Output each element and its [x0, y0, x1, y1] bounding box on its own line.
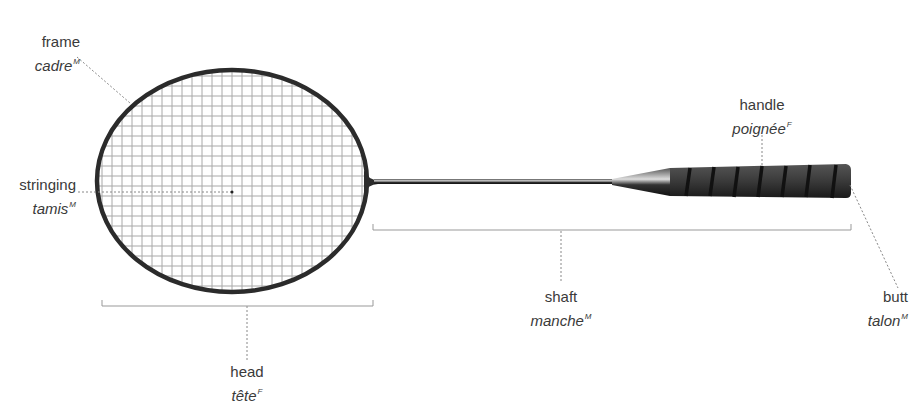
shaft-taper	[612, 168, 670, 196]
label-head: head têteF	[207, 362, 287, 405]
label-frame: frame cadreM	[20, 32, 80, 76]
butt-leader	[850, 185, 898, 288]
shaft-bracket	[373, 224, 851, 230]
head-bracket	[102, 300, 373, 306]
label-butt: butt talonM	[840, 287, 908, 331]
label-handle: handle poignéeF	[712, 95, 812, 139]
stringing-point	[231, 191, 234, 194]
label-shaft: shaft mancheM	[511, 287, 611, 331]
shaft-rod	[374, 179, 614, 184]
label-stringing: stringing tamisM	[0, 175, 76, 219]
frame-leader	[77, 57, 130, 103]
